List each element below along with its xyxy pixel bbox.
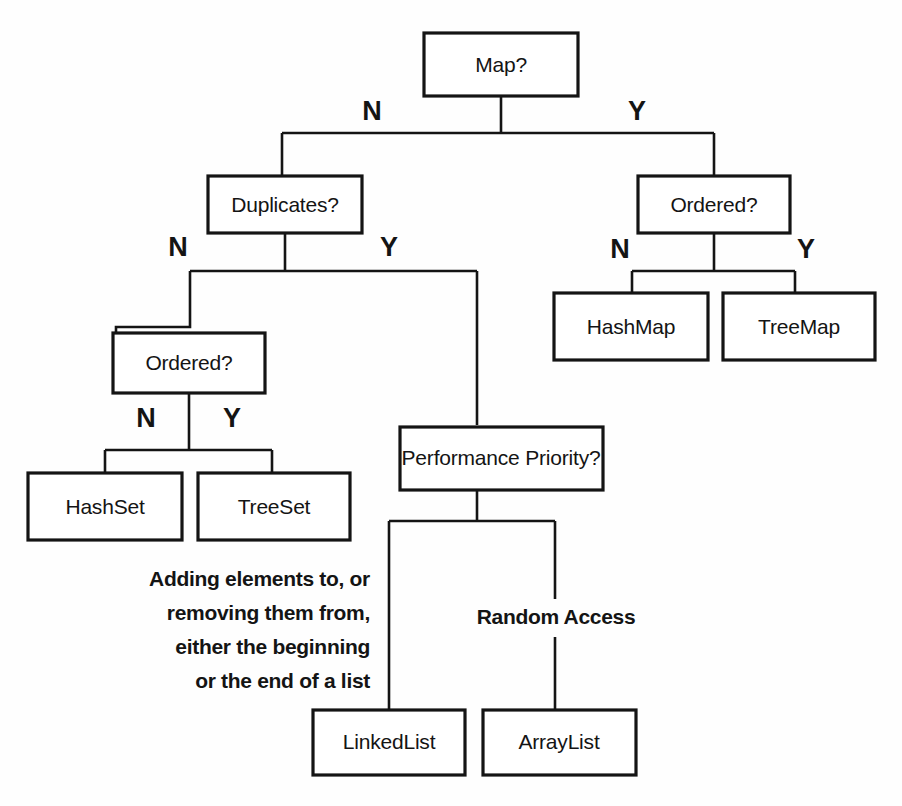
node-hashmap-label: HashMap	[587, 315, 675, 338]
edge-description-linkedlist-line-2: removing them from,	[167, 601, 370, 624]
node-arraylist[interactable]: ArrayList	[483, 710, 636, 775]
decision-tree-canvas: Map? Duplicates? Ordered? HashMap TreeMa…	[0, 0, 902, 806]
branch-label-ordered-set-no: N	[136, 403, 156, 433]
branch-label-duplicates-no: N	[168, 232, 188, 262]
edge-duplicates-no	[116, 271, 190, 333]
node-duplicates-question[interactable]: Duplicates?	[208, 176, 362, 233]
branch-label-ordered-map-yes: Y	[797, 234, 815, 264]
node-performance-question-label: Performance Priority?	[402, 446, 601, 469]
node-map-question-label: Map?	[475, 53, 527, 76]
node-performance-question[interactable]: Performance Priority?	[400, 427, 603, 490]
edge-description-linkedlist-line-4: or the end of a list	[195, 669, 370, 692]
node-treeset[interactable]: TreeSet	[198, 473, 350, 540]
node-map-question[interactable]: Map?	[424, 33, 578, 96]
node-ordered-question-map[interactable]: Ordered?	[638, 176, 790, 233]
node-hashmap[interactable]: HashMap	[554, 293, 708, 360]
node-linkedlist-label: LinkedList	[343, 730, 436, 753]
decision-tree-diagram: Map? Duplicates? Ordered? HashMap TreeMa…	[0, 0, 902, 806]
edge-description-linkedlist-line-3: either the beginning	[175, 635, 370, 658]
node-ordered-question-set[interactable]: Ordered?	[113, 333, 265, 393]
node-treemap-label: TreeMap	[758, 315, 840, 338]
branch-label-duplicates-yes: Y	[380, 232, 398, 262]
node-hashset-label: HashSet	[65, 495, 145, 518]
node-ordered-question-map-label: Ordered?	[670, 193, 757, 216]
edge-description-linkedlist-line-1: Adding elements to, or	[149, 567, 370, 590]
node-ordered-question-set-label: Ordered?	[145, 351, 232, 374]
node-treeset-label: TreeSet	[238, 495, 311, 518]
branch-label-ordered-set-yes: Y	[223, 403, 241, 433]
edge-description-arraylist-label: Random Access	[477, 605, 636, 628]
node-linkedlist[interactable]: LinkedList	[313, 710, 465, 775]
edge-description-arraylist: Random Access	[477, 605, 636, 628]
node-treemap[interactable]: TreeMap	[723, 293, 875, 360]
edge-description-linkedlist: Adding elements to, or removing them fro…	[149, 567, 370, 692]
branch-label-ordered-map-no: N	[610, 234, 630, 264]
branch-label-map-yes: Y	[628, 96, 646, 126]
node-hashset[interactable]: HashSet	[28, 473, 182, 540]
branch-label-map-no: N	[362, 96, 382, 126]
node-duplicates-question-label: Duplicates?	[231, 193, 339, 216]
node-arraylist-label: ArrayList	[518, 730, 599, 753]
